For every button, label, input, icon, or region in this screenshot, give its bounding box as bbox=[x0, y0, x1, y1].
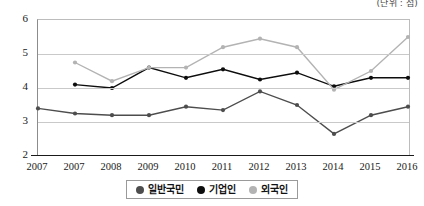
y-tick-label: 5 bbox=[2, 47, 28, 58]
data-point bbox=[258, 89, 262, 93]
y-tick-label: 3 bbox=[2, 115, 28, 126]
data-point bbox=[184, 76, 188, 80]
unit-caption: (단위 : 점) bbox=[0, 0, 418, 9]
data-point bbox=[406, 76, 410, 80]
data-point bbox=[221, 45, 225, 49]
plot-area bbox=[37, 19, 410, 156]
data-point bbox=[295, 71, 299, 75]
legend-marker-icon bbox=[136, 186, 144, 194]
legend-marker-icon bbox=[197, 186, 205, 194]
legend-item: 외국인 bbox=[249, 184, 288, 195]
data-point bbox=[258, 37, 262, 41]
legend-label: 일반국민 bbox=[148, 184, 184, 195]
data-point bbox=[406, 105, 410, 109]
data-point bbox=[369, 69, 373, 73]
y-tick-label: 6 bbox=[2, 13, 28, 24]
data-point bbox=[221, 67, 225, 71]
legend-label: 기업인 bbox=[209, 184, 236, 195]
data-point bbox=[147, 66, 151, 70]
series-line bbox=[38, 91, 408, 133]
x-tick-label: 2016 bbox=[384, 159, 424, 175]
data-point bbox=[73, 83, 77, 87]
x-axis-line bbox=[31, 155, 414, 156]
data-point bbox=[369, 76, 373, 80]
data-point bbox=[184, 66, 188, 70]
data-point bbox=[36, 106, 40, 110]
data-point bbox=[406, 35, 410, 39]
series-line bbox=[75, 37, 408, 90]
data-point bbox=[110, 113, 114, 117]
gridline bbox=[38, 122, 409, 123]
data-point bbox=[110, 79, 114, 83]
data-point bbox=[369, 113, 373, 117]
legend-label: 외국인 bbox=[261, 184, 288, 195]
data-point bbox=[258, 77, 262, 81]
data-point bbox=[147, 113, 151, 117]
data-point bbox=[184, 105, 188, 109]
gridline bbox=[38, 88, 409, 89]
legend-marker-icon bbox=[249, 186, 257, 194]
chart-legend: 일반국민기업인외국인 bbox=[126, 180, 298, 199]
x-axis-tick-labels: 2007200720082009201020112012201320142015… bbox=[0, 159, 424, 175]
legend-item: 일반국민 bbox=[136, 184, 184, 195]
data-point bbox=[73, 111, 77, 115]
data-point bbox=[295, 45, 299, 49]
legend-item: 기업인 bbox=[197, 184, 236, 195]
chart-container: (단위 : 점) 23456 2007200720082009201020112… bbox=[0, 0, 424, 206]
gridline bbox=[38, 54, 409, 55]
data-point bbox=[332, 132, 336, 136]
data-point bbox=[73, 60, 77, 64]
y-tick-label: 4 bbox=[2, 81, 28, 92]
data-point bbox=[295, 103, 299, 107]
data-point bbox=[221, 108, 225, 112]
